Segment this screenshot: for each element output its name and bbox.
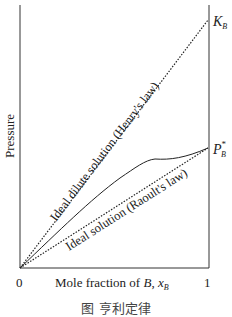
y-axis-label: Pressure (2, 114, 17, 158)
kb-label: KB (212, 14, 227, 31)
figure-caption: 图 亨利定律 (0, 298, 232, 317)
x-axis-label: Mole fraction of B, xB (55, 275, 169, 292)
raoult-law-line (20, 148, 208, 268)
x-tick-0: 0 (16, 275, 23, 290)
x-tick-1: 1 (204, 275, 211, 290)
pb-label: P*B (212, 139, 227, 159)
